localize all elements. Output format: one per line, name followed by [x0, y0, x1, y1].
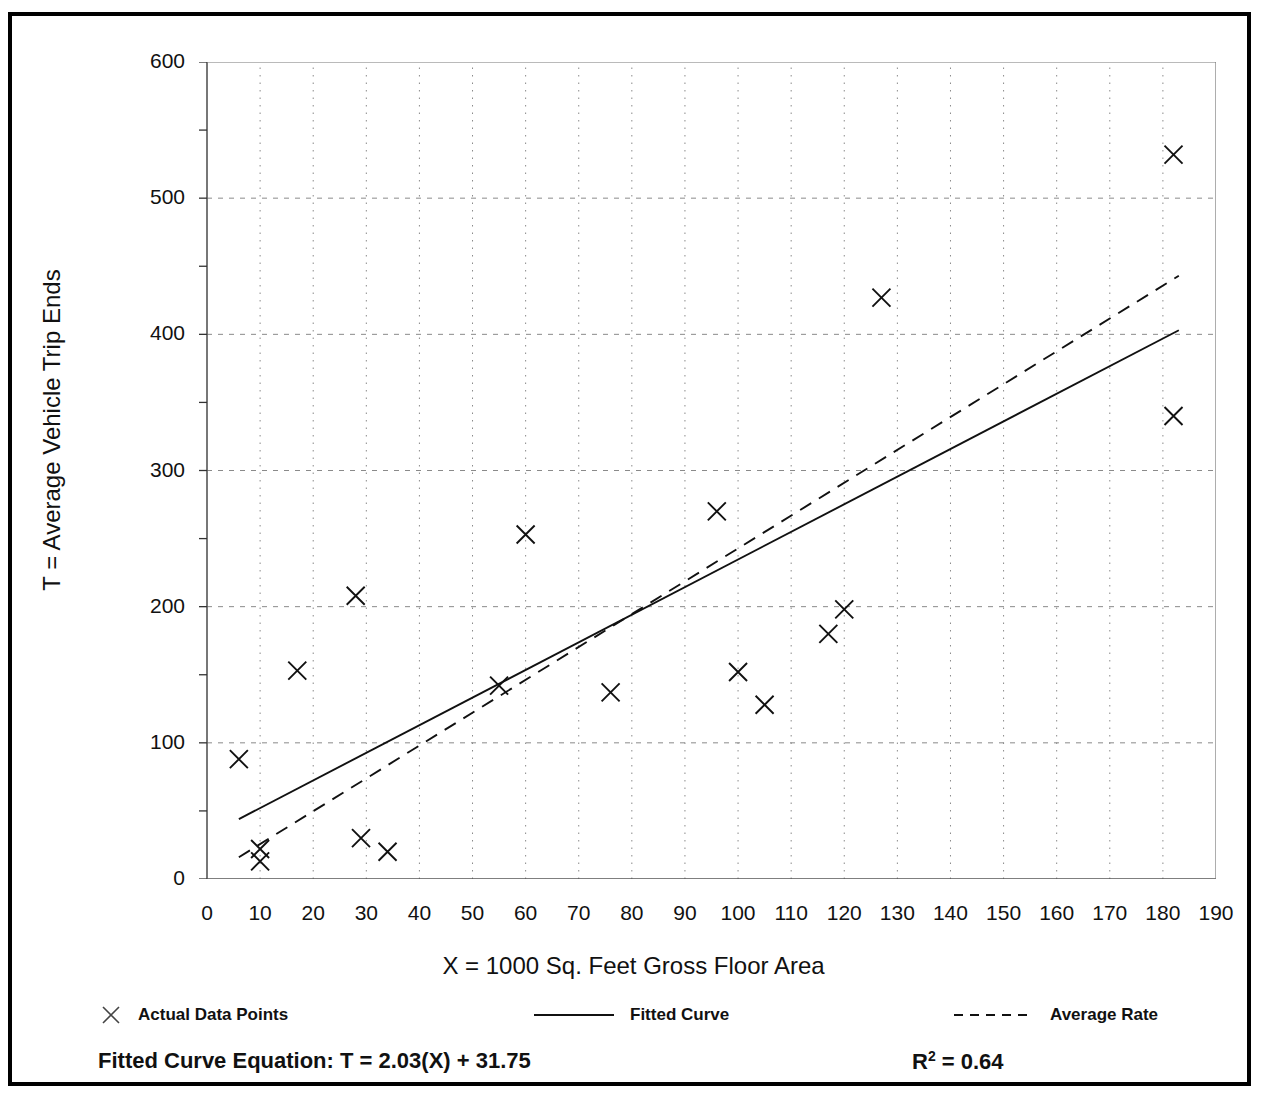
r-squared-prefix: R [912, 1049, 928, 1074]
x-axis-tick-label: 100 [708, 901, 768, 925]
r-squared-value: R2 = 0.64 [912, 1048, 1004, 1075]
x-axis-tick-label: 110 [761, 901, 821, 925]
solid-line-icon [532, 1002, 616, 1028]
y-axis-tick-label: 0 [119, 866, 185, 890]
x-axis-tick-label: 180 [1133, 901, 1193, 925]
x-marker-icon [98, 1002, 124, 1028]
x-axis-tick-label: 80 [602, 901, 662, 925]
legend-item-fitted-curve: Fitted Curve [532, 998, 729, 1032]
legend-label-actual-data-points: Actual Data Points [138, 1005, 288, 1025]
fitted-curve-equation: Fitted Curve Equation: T = 2.03(X) + 31.… [98, 1048, 531, 1074]
x-axis-tick-label: 90 [655, 901, 715, 925]
r-squared-exponent: 2 [928, 1048, 936, 1064]
y-axis-tick-label: 300 [119, 458, 185, 482]
x-axis-tick-label: 40 [389, 901, 449, 925]
x-axis-tick-label: 10 [230, 901, 290, 925]
legend-item-average-rate: Average Rate [952, 998, 1158, 1032]
footer-row: Fitted Curve Equation: T = 2.03(X) + 31.… [12, 1048, 1255, 1088]
scatter-plot-svg [199, 62, 1216, 879]
legend-label-average-rate: Average Rate [1050, 1005, 1158, 1025]
legend-label-fitted-curve: Fitted Curve [630, 1005, 729, 1025]
x-axis-tick-label: 140 [920, 901, 980, 925]
x-axis-tick-label: 170 [1080, 901, 1140, 925]
y-axis-tick-label: 100 [119, 730, 185, 754]
x-axis-tick-label: 160 [1027, 901, 1087, 925]
x-axis-tick-label: 70 [549, 901, 609, 925]
dashed-line-icon [952, 1002, 1036, 1028]
y-axis-title: T = Average Vehicle Trip Ends [38, 170, 66, 690]
x-axis-tick-label: 60 [496, 901, 556, 925]
x-axis-tick-label: 120 [814, 901, 874, 925]
x-axis-tick-label: 50 [443, 901, 503, 925]
chart-frame: T = Average Vehicle Trip Ends X = 1000 S… [8, 12, 1251, 1086]
x-axis-tick-label: 30 [336, 901, 396, 925]
chart-legend: Actual Data Points Fitted Curve Average … [12, 998, 1255, 1032]
plot-area [199, 62, 1216, 879]
x-axis-tick-label: 150 [974, 901, 1034, 925]
legend-item-actual-data-points: Actual Data Points [98, 998, 288, 1032]
x-axis-tick-label: 20 [283, 901, 343, 925]
x-axis-title: X = 1000 Sq. Feet Gross Floor Area [12, 952, 1255, 980]
x-axis-tick-label: 0 [177, 901, 237, 925]
y-axis-tick-label: 600 [119, 49, 185, 73]
x-axis-tick-label: 130 [867, 901, 927, 925]
y-axis-tick-label: 400 [119, 321, 185, 345]
x-axis-tick-label: 190 [1186, 901, 1246, 925]
r-squared-number: = 0.64 [936, 1049, 1004, 1074]
y-axis-tick-label: 200 [119, 594, 185, 618]
y-axis-tick-label: 500 [119, 185, 185, 209]
